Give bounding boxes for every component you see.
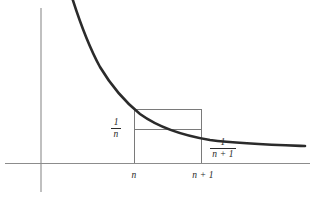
fraction-numerator: 1 — [219, 138, 228, 148]
fraction-denominator: n — [112, 129, 121, 139]
figure-canvas — [0, 0, 316, 204]
x-tick-label-n-plus-1: n + 1 — [184, 170, 222, 180]
fraction-numerator: 1 — [112, 118, 121, 128]
fraction-one-over-n: 1 n — [111, 118, 121, 140]
fraction-one-over-n-plus-1: 1 n + 1 — [210, 138, 236, 160]
math-figure: 1 n 1 n + 1 n n + 1 — [0, 0, 316, 204]
label-one-over-n-plus-1: 1 n + 1 — [203, 138, 243, 160]
fraction-denominator: n + 1 — [210, 149, 236, 159]
label-one-over-n: 1 n — [103, 118, 129, 140]
x-tick-label-n: n — [122, 170, 146, 180]
